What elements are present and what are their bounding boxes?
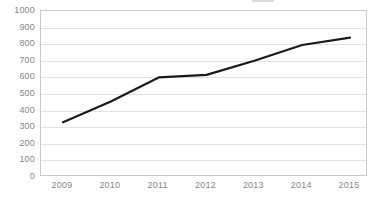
x-tick-label-2014: 2014 bbox=[291, 180, 312, 190]
x-axis-tick-labels: 2009201020112012201320142015 bbox=[40, 180, 367, 196]
line-chart: 01002003004005006007008009001000 2009201… bbox=[0, 0, 379, 199]
y-tick-label-400: 400 bbox=[0, 105, 35, 115]
y-tick-label-900: 900 bbox=[0, 22, 35, 32]
x-tick-label-2012: 2012 bbox=[195, 180, 216, 190]
x-tick-label-2010: 2010 bbox=[99, 180, 120, 190]
chart-legend bbox=[252, 0, 348, 5]
y-tick-label-500: 500 bbox=[0, 88, 35, 98]
y-axis-tick-labels: 01002003004005006007008009001000 bbox=[0, 10, 35, 176]
x-tick-label-2015: 2015 bbox=[339, 180, 360, 190]
plot-area bbox=[40, 10, 367, 176]
y-tick-label-0: 0 bbox=[0, 171, 35, 181]
x-tick-label-2013: 2013 bbox=[243, 180, 264, 190]
y-tick-label-800: 800 bbox=[0, 38, 35, 48]
y-tick-label-600: 600 bbox=[0, 71, 35, 81]
data-series-line bbox=[41, 11, 368, 177]
x-tick-label-2009: 2009 bbox=[52, 180, 73, 190]
x-tick-label-2011: 2011 bbox=[148, 180, 168, 190]
y-tick-label-300: 300 bbox=[0, 121, 35, 131]
y-tick-label-200: 200 bbox=[0, 138, 35, 148]
y-tick-label-700: 700 bbox=[0, 55, 35, 65]
y-tick-label-100: 100 bbox=[0, 154, 35, 164]
legend-line-swatch bbox=[252, 0, 274, 2]
y-tick-label-1000: 1000 bbox=[0, 5, 35, 15]
